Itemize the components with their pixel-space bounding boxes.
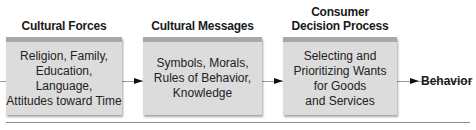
bottom-rule [6,122,470,123]
content-line: Attitudes toward Time [6,94,122,109]
arrow-icon [274,78,283,84]
heading-line: Cultural Forces [21,19,106,33]
content-line: Prioritizing Wants [294,64,387,79]
heading-cultural-messages: Cultural Messages [143,19,262,33]
content-line: for Goods [294,79,387,94]
outcome-behavior: Behavior [421,74,472,88]
content-line: Symbols, Morals, [154,56,251,71]
content-line: Rules of Behavior, [154,71,251,86]
content-line: and Services [294,94,387,109]
arrow-icon [134,78,143,84]
content-line: Selecting and [294,49,387,64]
heading-line: Decision Process [278,19,402,33]
content-line: Knowledge [154,86,251,101]
box-consumer-decision-process: Selecting and Prioritizing Wants for Goo… [283,37,397,115]
heading-cultural-forces: Cultural Forces [6,19,122,33]
content-line: Education, Language, [6,64,122,94]
content-line: Religion, Family, [6,49,122,64]
heading-line: Cultural Messages [151,19,254,33]
heading-consumer-decision-process: Consumer Decision Process [278,5,402,33]
arrow-icon [410,78,419,84]
box-cultural-messages: Symbols, Morals, Rules of Behavior, Know… [143,37,262,115]
box-cultural-forces: Religion, Family, Education, Language, A… [6,37,122,115]
heading-line: Consumer [278,5,402,19]
